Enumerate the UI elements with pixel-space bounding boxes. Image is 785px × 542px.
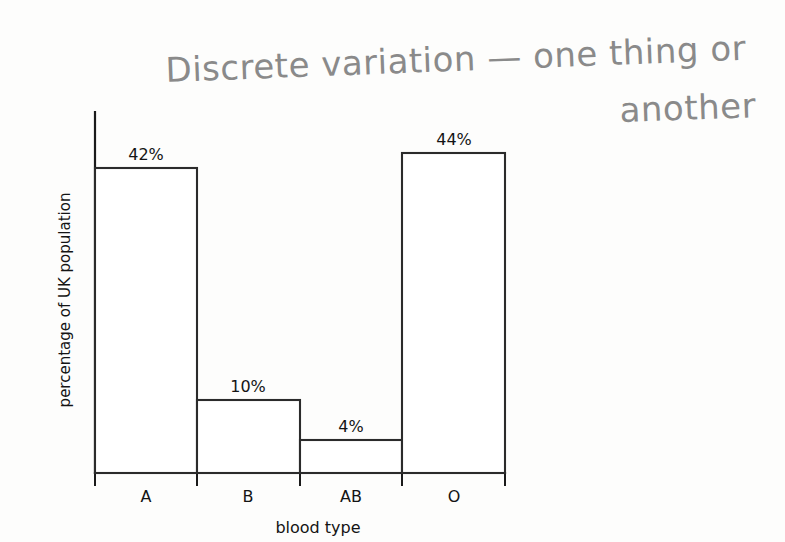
x-axis-category-label-O: O [448,487,461,506]
x-axis-category-label-A: A [141,487,152,506]
bar-value-label-B: 10% [230,377,266,396]
bar-value-label-A: 42% [128,145,164,164]
bar-O [402,153,505,473]
bar-A [95,168,197,473]
bar-value-label-AB: 4% [338,417,363,436]
x-axis-title: blood type [275,518,360,537]
bar-AB [300,440,402,473]
x-axis-category-label-AB: AB [340,487,362,506]
bar-B [197,400,300,473]
bar-value-label-O: 44% [436,130,472,149]
y-axis-title: percentage of UK population [56,193,74,408]
x-axis-category-label-B: B [243,487,254,506]
bar-chart: percentage of UK population 42% 10% 4% 4… [0,0,785,542]
